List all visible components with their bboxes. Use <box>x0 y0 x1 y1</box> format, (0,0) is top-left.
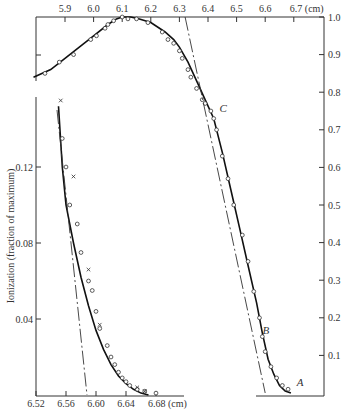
fitted-curve <box>34 17 291 393</box>
bottom-tick-label: 6.56 <box>57 398 75 409</box>
cross-point <box>87 268 91 272</box>
data-point <box>166 38 170 42</box>
cross-point <box>72 175 76 179</box>
cross-point <box>59 99 63 103</box>
left-y-axis: 0.040.080.12 <box>16 55 42 325</box>
right-y-axis: 0.10.20.30.40.50.60.70.80.91.0 <box>319 12 341 361</box>
ionization-chart: 5.96.06.16.26.36.46.56.66.7 (cm) 0.10.20… <box>0 0 346 414</box>
top-tick-label: 6.0 <box>87 3 100 14</box>
data-point <box>64 165 68 169</box>
data-point <box>215 128 219 132</box>
data-point <box>94 310 98 314</box>
data-point <box>258 316 262 320</box>
data-point <box>232 203 236 207</box>
data-point <box>90 289 94 293</box>
data-point <box>209 109 213 113</box>
data-point <box>220 154 224 158</box>
data-point <box>79 251 83 255</box>
bottom-x-axis: 6.526.566.606.646.68 (cm) <box>27 391 187 410</box>
data-point <box>172 41 176 45</box>
right-tick-label: 0.8 <box>328 87 341 98</box>
data-point <box>252 290 256 294</box>
data-point <box>113 363 117 367</box>
left-tick-label: 0.08 <box>16 238 34 249</box>
data-point <box>106 23 110 27</box>
top-tick-label: 6.6 <box>259 3 272 14</box>
data-point <box>89 38 93 42</box>
data-point <box>195 87 199 91</box>
top-tick-label: 6.7 (cm) <box>290 3 324 15</box>
right-tick-label: 0.7 <box>328 124 341 135</box>
right-tick-label: 1.0 <box>328 12 341 23</box>
data-point <box>57 60 61 64</box>
data-point <box>280 384 284 388</box>
data-point <box>160 30 164 34</box>
main-curve-series <box>34 15 291 393</box>
data-point <box>212 117 216 121</box>
data-point <box>189 75 193 79</box>
data-point <box>126 17 130 21</box>
data-point <box>98 327 102 331</box>
annotation-a: A <box>296 376 304 388</box>
data-point <box>124 380 128 384</box>
data-point <box>112 19 116 23</box>
data-point <box>103 26 107 30</box>
data-point <box>109 355 113 359</box>
right-tick-label: 0.2 <box>328 312 341 323</box>
data-point <box>263 350 267 354</box>
bottom-tick-label: 6.52 <box>27 398 45 409</box>
annotation-b: B <box>262 324 269 336</box>
data-point <box>146 21 150 25</box>
left-tick-label: 0.12 <box>16 162 34 173</box>
left-tick-label: 0.04 <box>16 314 34 325</box>
data-point <box>246 260 250 264</box>
data-point <box>135 17 139 21</box>
annotation-c: C <box>220 102 228 114</box>
data-point <box>72 53 76 57</box>
data-point <box>60 137 64 141</box>
data-point <box>269 365 273 369</box>
data-point <box>105 344 109 348</box>
data-point <box>87 279 91 283</box>
right-tick-label: 0.4 <box>328 237 341 248</box>
right-tick-label: 0.5 <box>328 200 341 211</box>
data-point <box>186 68 190 72</box>
data-point <box>180 56 184 60</box>
data-point <box>275 376 279 380</box>
top-tick-label: 6.1 <box>116 3 129 14</box>
inset-curve-series <box>57 99 158 395</box>
data-point <box>43 72 47 76</box>
plot-frame <box>36 17 324 396</box>
data-point <box>117 370 121 374</box>
right-tick-label: 0.9 <box>328 49 341 60</box>
top-x-axis: 5.96.06.16.26.36.46.56.66.7 (cm) <box>59 3 324 22</box>
bottom-tick-label: 6.60 <box>87 398 105 409</box>
data-point <box>75 222 79 226</box>
top-tick-label: 6.3 <box>173 3 186 14</box>
data-point <box>95 34 99 38</box>
point-annotations: CBA <box>220 102 304 388</box>
data-point <box>286 387 290 391</box>
top-tick-label: 6.5 <box>230 3 243 14</box>
tangent-line <box>185 17 265 393</box>
bottom-tick-label: 6.68 (cm) <box>148 398 187 410</box>
top-tick-label: 6.4 <box>202 3 215 14</box>
data-point <box>154 391 158 395</box>
data-point <box>240 233 244 237</box>
top-tick-label: 5.9 <box>59 3 72 14</box>
data-point <box>120 376 124 380</box>
data-point <box>178 49 182 53</box>
right-tick-label: 0.1 <box>328 350 341 361</box>
bottom-tick-label: 6.64 <box>117 398 135 409</box>
data-point <box>68 203 72 207</box>
top-tick-label: 6.2 <box>145 3 158 14</box>
data-point <box>226 177 230 181</box>
data-point <box>120 15 124 19</box>
right-tick-label: 0.3 <box>328 275 341 286</box>
right-tick-label: 0.6 <box>328 162 341 173</box>
cross-point <box>98 323 102 327</box>
data-point <box>135 387 139 391</box>
data-point <box>128 384 132 388</box>
y-axis-title: Ionization (fraction of maximum) <box>5 169 17 304</box>
